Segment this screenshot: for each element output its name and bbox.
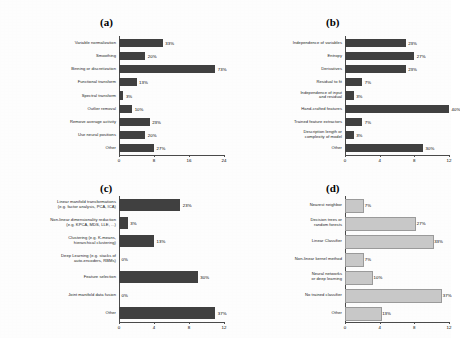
category-label: Independence of input and residual [230,91,342,101]
bar-value-label: 33% [165,40,174,45]
x-tick [189,322,190,324]
x-tick [154,155,155,157]
panel-title-d: (d) [326,182,339,194]
bar-value-label: 3% [130,221,136,226]
bar [119,307,215,318]
bar-value-label: 30% [426,146,435,151]
category-label: Feature selection [4,275,116,280]
category-label: Use neural positions [4,133,116,138]
bar-value-label: 7% [365,203,371,208]
bar [119,91,123,99]
bar [345,39,406,47]
x-tick-label: 8 [413,158,415,163]
bar-value-label: 7% [365,119,371,124]
category-label: Trained feature extractors [230,119,342,124]
x-tick-label: 4 [378,325,380,330]
x-tick-label: 12 [447,325,452,330]
bar [345,91,354,99]
x-tick-label: 0 [118,158,120,163]
bar-value-label: 20% [148,53,157,58]
category-label: Binning or discretization [4,67,116,72]
panel-title-c: (c) [100,182,112,194]
x-tick-label: 8 [153,158,155,163]
bar-value-label: 13% [382,311,391,316]
x-tick [154,322,155,324]
bar [345,131,354,139]
category-label: Non-linear kernel method [230,257,342,262]
bar-value-label: 27% [157,146,166,151]
x-tick [224,155,225,157]
bar [345,253,364,266]
x-tick [449,322,450,324]
panel-title-a: (a) [100,16,113,28]
bar [119,118,150,126]
x-tick [189,155,190,157]
bar [119,217,128,228]
bar-value-label: 10% [374,275,383,280]
category-label: Functional transform [4,80,116,85]
x-tick-label: 0 [344,325,346,330]
category-label: Other [4,311,116,316]
x-tick [345,322,346,324]
category-label: Entropy [230,53,342,58]
bar-value-label: 3% [126,93,132,98]
x-axis-line-c [119,322,224,323]
x-tick [119,322,120,324]
x-tick [449,155,450,157]
category-label: Spectral transform [4,93,116,98]
category-label: No trained classifier [230,293,342,298]
bar [345,144,423,152]
bar [119,52,145,60]
x-tick [380,322,381,324]
bar-value-label: 37% [443,293,452,298]
category-label: Linear Classifier [230,239,342,244]
x-tick-label: 0 [118,325,120,330]
bar-value-label: 30% [200,275,209,280]
bar [119,78,137,86]
bar-value-label: 3% [356,93,362,98]
x-tick-label: 12 [222,325,227,330]
bar [345,307,382,320]
x-tick-label: 12 [447,158,452,163]
x-tick-label: 16 [187,158,192,163]
x-tick [345,155,346,157]
panel-title-b: (b) [326,16,339,28]
category-label: Deep Learning (e.g. stacks of auto-encod… [4,254,116,264]
x-tick-label: 8 [188,325,190,330]
bar [345,52,414,60]
bar-value-label: 20% [148,133,157,138]
bar [345,65,406,73]
category-label: Hand-crafted features [230,106,342,111]
bar [119,199,180,210]
x-axis-line-d [345,322,449,323]
x-tick [119,155,120,157]
bar [119,235,154,246]
category-label: Linear manifold transformations (e.g. fa… [4,200,116,210]
category-label: Remove average activity [4,119,116,124]
bar [345,235,434,248]
bar [345,217,416,230]
bar [119,271,198,282]
bar [119,105,132,113]
bar-value-label: 23% [183,203,192,208]
bar-value-label: 3% [356,133,362,138]
bar-value-label: 7% [365,80,371,85]
bar [345,105,449,113]
category-label: Neural networks or deep learning [230,272,342,282]
bar-value-label: 33% [434,239,443,244]
category-label: Independence of variables [230,40,342,45]
x-tick-label: 8 [413,325,415,330]
x-tick-label: 4 [153,325,155,330]
category-label: Other [4,146,116,151]
bar-value-label: 73% [218,67,227,72]
category-label: Other [230,146,342,151]
category-label: Decision trees or random forests [230,218,342,228]
bar [345,271,373,284]
category-label: Residual to fit [230,80,342,85]
x-axis-line-b [345,155,449,156]
bar-value-label: 37% [218,311,227,316]
category-label: Joint manifold data fusion [4,293,116,298]
x-tick [414,155,415,157]
category-label: Description length or complexity of mode… [230,130,342,140]
